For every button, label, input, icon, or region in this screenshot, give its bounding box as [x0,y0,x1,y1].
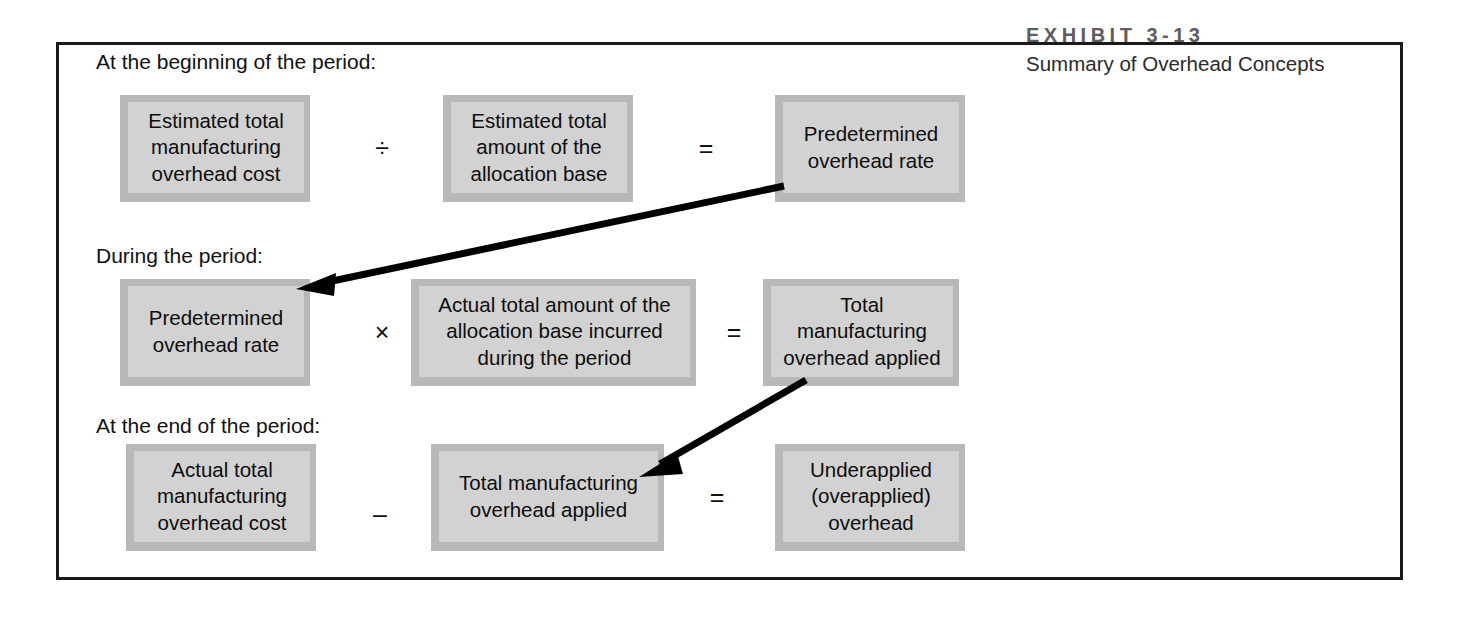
operator-equals-row2: = [714,320,754,345]
box-label: Total manufacturing overhead applied [771,292,953,371]
box-inner: Predetermined overhead rate [783,102,959,193]
box-label: Estimated total amount of the allocation… [451,108,627,187]
section-label-during-the-period: During the period: [96,244,263,268]
operator-multiply-row2: × [362,320,402,345]
box-label: Actual total amount of the allocation ba… [419,292,690,371]
exhibit-caption: EXHIBIT 3-13 Summary of Overhead Concept… [1026,24,1326,77]
box-predetermined-overhead-rate-row2: Predetermined overhead rate [120,279,310,386]
box-label: Total manufacturing overhead applied [439,470,658,522]
box-estimated-total-manufacturing-overhead-cost: Estimated total manufacturing overhead c… [120,95,310,202]
exhibit-title: Summary of Overhead Concepts [1026,51,1326,77]
box-label: Predetermined overhead rate [128,305,304,357]
operator-divide-row1: ÷ [362,136,402,161]
box-inner: Total manufacturing overhead applied [771,286,953,377]
box-inner: Actual total manufacturing overhead cost [134,451,310,542]
box-inner: Estimated total manufacturing overhead c… [128,102,304,193]
box-inner: Total manufacturing overhead applied [439,451,658,542]
box-inner: Underapplied (overapplied) overhead [783,451,959,542]
section-label-beginning-of-period: At the beginning of the period: [96,50,376,74]
operator-equals-row1: = [686,136,726,161]
box-label: Predetermined overhead rate [783,121,959,173]
box-inner: Actual total amount of the allocation ba… [419,286,690,377]
box-underapplied-overapplied-overhead: Underapplied (overapplied) overhead [775,444,965,551]
box-label: Actual total manufacturing overhead cost [134,457,310,536]
box-label: Estimated total manufacturing overhead c… [128,108,304,187]
exhibit-number: EXHIBIT 3-13 [1026,24,1326,46]
box-inner: Estimated total amount of the allocation… [451,102,627,193]
section-label-end-of-period: At the end of the period: [96,414,320,438]
operator-equals-row3: = [697,485,737,510]
box-total-manufacturing-overhead-applied-row2: Total manufacturing overhead applied [763,279,959,386]
box-actual-total-amount-of-allocation-base-incurred: Actual total amount of the allocation ba… [411,279,696,386]
box-actual-total-manufacturing-overhead-cost: Actual total manufacturing overhead cost [126,444,316,551]
box-predetermined-overhead-rate-row1: Predetermined overhead rate [775,95,965,202]
box-inner: Predetermined overhead rate [128,286,304,377]
operator-minus-row3: – [360,502,400,527]
box-total-manufacturing-overhead-applied-row3: Total manufacturing overhead applied [431,444,664,551]
box-estimated-total-amount-of-the-allocation-base: Estimated total amount of the allocation… [443,95,633,202]
box-label: Underapplied (overapplied) overhead [783,457,959,536]
